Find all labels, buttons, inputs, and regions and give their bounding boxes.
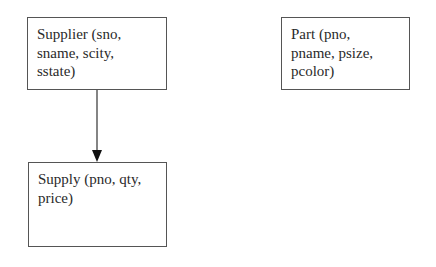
entity-part: Part (pno, pname, psize, pcolor) [281,17,410,90]
entity-supply-line-1: Supply (pno, qty, [38,170,166,189]
entity-part-line-2: pname, psize, [291,44,409,63]
entity-supply: Supply (pno, qty, price) [28,162,167,247]
entity-supplier-line-1: Supplier (sno, [37,25,166,44]
entity-part-line-3: pcolor) [291,62,409,81]
entity-supply-line-2: price) [38,189,166,208]
arrowhead-icon [92,150,102,162]
entity-supplier: Supplier (sno, sname, scity, sstate) [27,17,167,90]
entity-supplier-line-3: sstate) [37,62,166,81]
entity-part-line-1: Part (pno, [291,25,409,44]
entity-supplier-line-2: sname, scity, [37,44,166,63]
